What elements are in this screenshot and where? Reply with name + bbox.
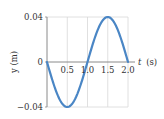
- axes: [45, 17, 135, 107]
- x-tick-label: 1.5: [101, 65, 115, 75]
- x-tick-label: 2.0: [121, 65, 135, 75]
- y-tick-labels: 0.040−0.04: [17, 12, 43, 112]
- y-axis-label: y (m): [9, 51, 19, 74]
- sine-wave-chart: 0.51.01.52.0 0.040−0.04 t (s) y (m): [0, 0, 164, 119]
- x-tick-label: 1.0: [81, 65, 95, 75]
- x-tick-labels: 0.51.01.52.0: [60, 65, 134, 75]
- x-tick-label: 0.5: [60, 65, 74, 75]
- x-axis-unit: (s): [146, 57, 157, 67]
- y-tick-label: −0.04: [17, 102, 43, 112]
- y-tick-label: 0: [38, 57, 43, 67]
- y-tick-label: 0.04: [24, 12, 43, 22]
- x-axis-variable: t: [138, 57, 142, 67]
- x-axis-label: t (s): [138, 57, 157, 67]
